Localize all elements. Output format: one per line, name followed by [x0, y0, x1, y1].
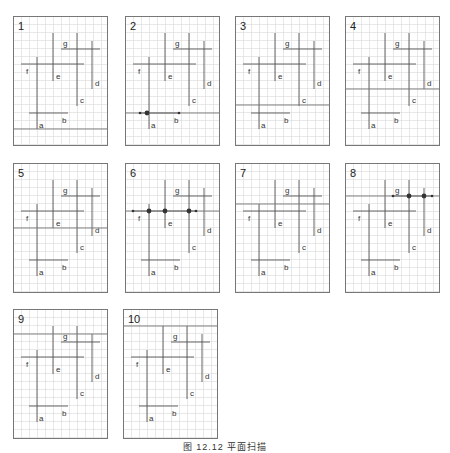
segment-label-b: b — [174, 263, 179, 272]
segment-label-c: c — [412, 96, 416, 105]
segment-label-f: f — [358, 214, 361, 223]
segment-label-g: g — [395, 186, 399, 195]
intersection-point — [163, 209, 168, 214]
intersection-point — [147, 209, 152, 214]
segment-label-b: b — [62, 409, 67, 418]
sweep-step-panel-10: abcdefg10 — [123, 309, 218, 439]
sweep-step-panel-8: abcdefg8 — [345, 163, 440, 293]
panel-number: 7 — [240, 167, 246, 179]
segment-label-e: e — [56, 365, 61, 374]
segment-label-e: e — [56, 72, 61, 81]
segment-label-e: e — [168, 219, 173, 228]
intersection-point — [132, 210, 135, 213]
segment-label-a: a — [371, 268, 376, 277]
sweep-step-panel-7: abcdefg7 — [235, 163, 330, 293]
segment-label-c: c — [192, 96, 196, 105]
segment-label-e: e — [168, 72, 173, 81]
sweep-step-panel-1: abcdefg1 — [13, 16, 108, 146]
intersection-point — [195, 210, 198, 213]
segment-label-c: c — [80, 96, 84, 105]
segment-label-c: c — [412, 243, 416, 252]
segment-label-f: f — [26, 67, 29, 76]
segment-label-g: g — [63, 186, 67, 195]
intersection-point — [407, 194, 412, 199]
intersection-point — [431, 195, 434, 198]
segment-label-d: d — [427, 226, 431, 235]
sweep-step-panel-9: abcdefg9 — [13, 309, 108, 439]
intersection-point — [145, 111, 150, 116]
panel-number: 9 — [18, 313, 24, 325]
segment-label-d: d — [95, 79, 99, 88]
segment-label-b: b — [284, 263, 289, 272]
segment-label-a: a — [261, 268, 266, 277]
segment-label-g: g — [285, 39, 289, 48]
segment-label-g: g — [63, 332, 67, 341]
segment-label-c: c — [302, 243, 306, 252]
segment-label-e: e — [278, 219, 283, 228]
segment-label-g: g — [285, 186, 289, 195]
segment-label-a: a — [39, 414, 44, 423]
segment-label-d: d — [207, 226, 211, 235]
segment-label-f: f — [136, 360, 139, 369]
segment-label-e: e — [278, 72, 283, 81]
segment-label-c: c — [302, 96, 306, 105]
segment-label-f: f — [138, 67, 141, 76]
segment-label-a: a — [39, 268, 44, 277]
panel-number: 10 — [128, 313, 140, 325]
segment-label-b: b — [172, 409, 177, 418]
panel-number: 5 — [18, 167, 24, 179]
segment-label-e: e — [166, 365, 171, 374]
segment-label-c: c — [80, 389, 84, 398]
segment-label-a: a — [151, 121, 156, 130]
sweep-step-panel-2: abcdefg2 — [125, 16, 220, 146]
segment-label-b: b — [62, 263, 67, 272]
panel-number: 1 — [18, 20, 24, 32]
segment-label-g: g — [63, 39, 67, 48]
intersection-point — [187, 209, 192, 214]
segment-label-a: a — [261, 121, 266, 130]
segment-label-b: b — [284, 116, 289, 125]
segment-label-f: f — [26, 214, 29, 223]
segment-label-b: b — [174, 116, 179, 125]
segment-label-f: f — [248, 214, 251, 223]
segment-label-d: d — [317, 79, 321, 88]
sweep-step-panel-6: abcdefg6 — [125, 163, 220, 293]
segment-label-g: g — [175, 186, 179, 195]
intersection-point — [392, 195, 395, 198]
panel-number: 8 — [350, 167, 356, 179]
segment-label-b: b — [394, 263, 399, 272]
segment-label-g: g — [395, 39, 399, 48]
segment-label-g: g — [175, 39, 179, 48]
intersection-point — [178, 112, 181, 115]
segment-label-e: e — [56, 219, 61, 228]
panel-number: 6 — [130, 167, 136, 179]
segment-label-a: a — [371, 121, 376, 130]
segment-label-c: c — [80, 243, 84, 252]
intersection-point — [139, 112, 142, 115]
segment-label-c: c — [190, 389, 194, 398]
panel-number: 3 — [240, 20, 246, 32]
segment-label-d: d — [427, 79, 431, 88]
figure-caption: 图 12.12 平面扫描 — [0, 440, 450, 453]
segment-label-a: a — [149, 414, 154, 423]
segment-label-g: g — [173, 332, 177, 341]
segment-label-c: c — [192, 243, 196, 252]
panel-number: 2 — [130, 20, 136, 32]
segment-label-f: f — [138, 214, 141, 223]
segment-label-b: b — [62, 116, 67, 125]
segment-label-d: d — [205, 372, 209, 381]
segment-label-e: e — [388, 72, 393, 81]
sweep-step-panel-4: abcdefg4 — [345, 16, 440, 146]
segment-label-f: f — [248, 67, 251, 76]
segment-label-b: b — [394, 116, 399, 125]
segment-label-d: d — [317, 226, 321, 235]
segment-label-d: d — [95, 372, 99, 381]
segment-label-e: e — [388, 219, 393, 228]
segment-label-a: a — [151, 268, 156, 277]
sweep-step-panel-3: abcdefg3 — [235, 16, 330, 146]
sweep-step-panel-5: abcdefg5 — [13, 163, 108, 293]
segment-label-f: f — [358, 67, 361, 76]
intersection-point — [422, 194, 427, 199]
segment-label-f: f — [26, 360, 29, 369]
panel-number: 4 — [350, 20, 356, 32]
